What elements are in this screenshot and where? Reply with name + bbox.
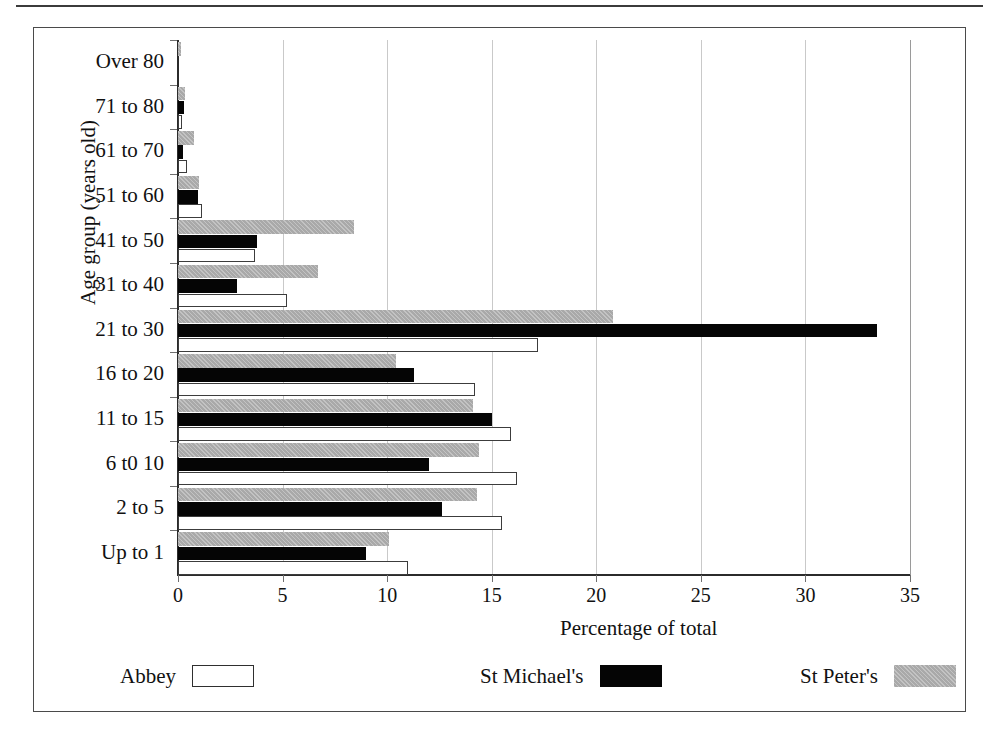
legend-swatch-michaels	[600, 665, 662, 687]
x-axis-tick	[283, 575, 284, 582]
x-axis-tick-label: 35	[890, 583, 930, 607]
bar	[178, 160, 187, 174]
x-axis-tick-label: 30	[785, 583, 825, 607]
y-axis-tick-label: 51 to 60	[14, 185, 164, 206]
legend-swatch-peters	[894, 665, 956, 687]
x-axis-tick	[387, 575, 388, 582]
bar	[178, 279, 237, 293]
y-axis-tick-label: 31 to 40	[14, 274, 164, 295]
bar	[178, 354, 396, 368]
x-axis-tick-label: 20	[576, 583, 616, 607]
chart-figure: Age group (years old) Over 8071 to 8061 …	[0, 0, 999, 742]
bar	[178, 338, 538, 352]
bar	[178, 516, 502, 530]
y-axis-tick-label: 16 to 20	[14, 363, 164, 384]
bar	[178, 443, 479, 457]
bar	[178, 115, 182, 129]
y-axis-tick-labels: Over 8071 to 8061 to 7051 to 6041 to 503…	[0, 0, 164, 742]
bar	[178, 413, 492, 427]
chart-legend: AbbeySt Michael'sSt Peter's	[60, 660, 940, 702]
x-axis-tick-label: 0	[158, 583, 198, 607]
bar	[178, 502, 442, 516]
x-axis-tick	[596, 575, 597, 582]
bar	[178, 488, 477, 502]
legend-entry: Abbey	[120, 660, 254, 692]
legend-label: St Michael's	[480, 664, 584, 689]
x-axis-tick-label: 15	[472, 583, 512, 607]
x-axis-tick-label: 25	[681, 583, 721, 607]
bar	[178, 42, 181, 56]
y-axis-tick-label: 61 to 70	[14, 140, 164, 161]
legend-entry: St Peter's	[800, 660, 956, 692]
y-axis-tick-label: 41 to 50	[14, 230, 164, 251]
legend-entry: St Michael's	[480, 660, 662, 692]
x-axis-tick	[701, 575, 702, 582]
x-axis-title: Percentage of total	[560, 616, 717, 641]
bar	[178, 458, 429, 472]
bar	[178, 561, 408, 575]
bar	[178, 310, 613, 324]
bar	[178, 220, 354, 234]
plot-area	[178, 40, 911, 575]
y-axis-tick-label: Over 80	[14, 51, 164, 72]
x-axis-tick-label: 10	[367, 583, 407, 607]
bar	[178, 87, 185, 101]
bar	[178, 145, 183, 159]
bar	[178, 235, 257, 249]
legend-label: Abbey	[120, 664, 176, 689]
bar	[178, 472, 517, 486]
bar	[178, 101, 184, 115]
y-axis-tick-label: 11 to 15	[14, 408, 164, 429]
bar	[178, 249, 255, 263]
legend-swatch-abbey	[192, 665, 254, 687]
bar	[178, 190, 198, 204]
bar	[178, 532, 389, 546]
y-axis-tick-label: Up to 1	[14, 542, 164, 563]
y-axis-tick-label: 2 to 5	[14, 497, 164, 518]
bar	[178, 547, 366, 561]
bar	[178, 265, 318, 279]
y-axis-tick-label: 21 to 30	[14, 319, 164, 340]
bar	[178, 399, 473, 413]
y-axis-tick-label: 71 to 80	[14, 96, 164, 117]
bar	[178, 368, 414, 382]
bar	[178, 294, 287, 308]
x-axis-tick	[492, 575, 493, 582]
bar	[178, 131, 194, 145]
y-axis-tick-label: 6 t0 10	[14, 453, 164, 474]
x-axis-tick	[910, 575, 911, 582]
bar	[178, 204, 202, 218]
bar	[178, 324, 877, 338]
bar	[178, 427, 511, 441]
bar	[178, 176, 199, 190]
x-axis-tick	[178, 575, 179, 582]
bar	[178, 383, 475, 397]
x-axis-tick-label: 5	[263, 583, 303, 607]
legend-label: St Peter's	[800, 664, 878, 689]
x-axis-tick	[805, 575, 806, 582]
